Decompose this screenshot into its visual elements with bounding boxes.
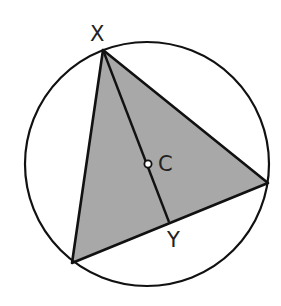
label-x: X <box>90 22 104 46</box>
diagram-canvas: X C Y <box>0 0 281 306</box>
inscribed-triangle-diagram: X C Y <box>0 0 281 306</box>
label-y: Y <box>166 228 180 252</box>
label-c: C <box>158 152 173 176</box>
center-point-c <box>144 160 151 167</box>
